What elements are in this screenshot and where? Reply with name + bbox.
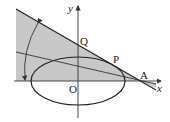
point-q-label: Q — [80, 35, 88, 47]
origin-label: O — [69, 83, 77, 95]
point-p-label: P — [113, 53, 119, 65]
point-a-label: A — [140, 69, 148, 81]
diagram-canvas: y x Q P A O — [0, 0, 170, 122]
y-axis-label: y — [67, 2, 73, 14]
x-axis-label: x — [156, 82, 162, 94]
